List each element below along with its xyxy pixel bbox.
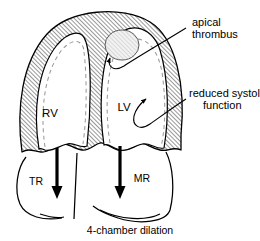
left-atrium-floor bbox=[100, 210, 160, 219]
reduced-systolic-function-label-line2: function bbox=[203, 99, 242, 111]
heart-diagram-figure: RV LV TR MR apical thrombus reduced syst… bbox=[0, 0, 260, 241]
heart-myocardium-group bbox=[20, 12, 182, 152]
figure-caption: 4-chamber dilation bbox=[87, 224, 174, 236]
apical-thrombus-label-line2: thrombus bbox=[192, 28, 238, 40]
interatrial-septum bbox=[74, 153, 77, 219]
flow-label-mr: MR bbox=[134, 172, 151, 184]
heart-diagram-svg: RV LV TR MR apical thrombus reduced syst… bbox=[0, 0, 260, 241]
apical-thrombus-label-line1: apical bbox=[192, 16, 221, 28]
chamber-label-lv: LV bbox=[117, 101, 131, 113]
chamber-label-rv: RV bbox=[42, 107, 58, 119]
mr-arrow-head bbox=[115, 186, 126, 199]
mr-flow-arrow-group bbox=[115, 146, 126, 199]
flow-label-tr: TR bbox=[29, 175, 43, 187]
left-atrium-outline bbox=[93, 152, 173, 222]
reduced-systolic-function-label-line1: reduced systolic bbox=[189, 87, 260, 99]
right-atrium-floor bbox=[40, 214, 64, 218]
tr-arrow-head bbox=[52, 186, 63, 199]
apical-thrombus-shape bbox=[105, 30, 139, 60]
tr-flow-arrow-group bbox=[52, 148, 63, 199]
